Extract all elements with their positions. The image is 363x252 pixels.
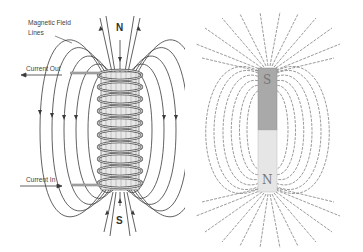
field-lines-label-2: Lines [28,29,44,36]
south-pole-label: S [116,215,123,226]
bar-magnet-diagram: S N [185,0,363,252]
current-out-label: Current Out [26,65,61,72]
solenoid-figure: Magnetic Field Lines Current Out Current… [0,0,185,252]
solenoid-diagram: Magnetic Field Lines Current Out Current… [0,0,185,252]
current-in-arrow-icon [57,184,62,188]
current-out-arrow-icon [21,73,26,77]
field-lines-label-1: Magnetic Field [28,19,71,27]
current-in-label: Current In [26,176,56,183]
solenoid-coil [70,70,142,190]
magnet-north-label: N [262,173,273,187]
bar-magnet-figure: S N [185,0,363,252]
magnet-south-label: S [263,73,271,87]
bar-magnet: S N [258,68,277,192]
north-pole-label: N [116,22,123,33]
